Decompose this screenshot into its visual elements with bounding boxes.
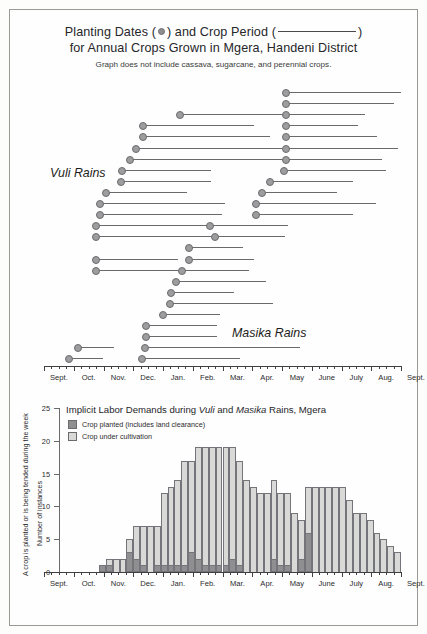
bar-column bbox=[223, 408, 230, 572]
crop-period-line bbox=[255, 214, 353, 215]
bar-segment-crop-under-cultivation bbox=[339, 487, 346, 572]
bar-segment-crop-under-cultivation bbox=[367, 520, 374, 572]
axis-tick-major bbox=[44, 366, 45, 371]
planting-date-marker bbox=[282, 156, 290, 164]
axis-tick-major bbox=[193, 572, 194, 577]
y-axis-tick-label: 25 bbox=[30, 404, 50, 413]
planting-date-marker bbox=[282, 122, 290, 130]
bar-segment-crop-under-cultivation bbox=[387, 546, 394, 572]
bar-segment-crop-under-cultivation bbox=[394, 552, 401, 572]
axis-tick-major bbox=[312, 572, 313, 577]
bar-segment-crop-under-cultivation bbox=[360, 513, 367, 572]
axis-month-label: Apr. bbox=[260, 373, 274, 382]
bar-segment-crop-under-cultivation bbox=[380, 539, 387, 572]
axis-tick-minor bbox=[126, 366, 127, 369]
axis-tick-major bbox=[312, 366, 313, 371]
axis-tick-major bbox=[74, 572, 75, 577]
axis-tick-minor bbox=[260, 572, 261, 575]
bar-column bbox=[264, 408, 271, 572]
crop-period-line bbox=[135, 148, 282, 149]
title-part-b: ) and Crop Period ( bbox=[167, 25, 276, 39]
bar-column bbox=[312, 408, 319, 572]
axis-tick-major bbox=[193, 366, 194, 371]
axis-tick-minor bbox=[334, 572, 335, 575]
axis-tick-minor bbox=[364, 366, 365, 369]
bar-column bbox=[154, 408, 161, 572]
axis-tick-minor bbox=[327, 366, 328, 369]
bar-column bbox=[161, 408, 168, 572]
bar-column bbox=[202, 408, 209, 572]
bar-segment-crop-planted bbox=[195, 559, 202, 572]
axis-tick-minor bbox=[394, 366, 395, 369]
bar-segment-crop-under-cultivation bbox=[346, 500, 353, 572]
axis-tick-minor bbox=[364, 572, 365, 575]
crop-period-line bbox=[95, 259, 178, 260]
axis-tick-minor bbox=[148, 572, 149, 575]
axis-tick-minor bbox=[319, 572, 320, 575]
planting-date-marker bbox=[166, 300, 174, 308]
planting-date-marker bbox=[185, 244, 193, 252]
bar-column bbox=[99, 408, 106, 572]
axis-tick-minor bbox=[289, 572, 290, 575]
crop-period-line bbox=[145, 325, 216, 326]
figure-title-line-1: Planting Dates () and Crop Period () bbox=[10, 24, 417, 40]
axis-tick-minor bbox=[141, 366, 142, 369]
axis-tick-major bbox=[252, 366, 253, 371]
planting-date-marker bbox=[138, 355, 146, 363]
axis-tick-minor bbox=[81, 572, 82, 575]
axis-tick-minor bbox=[230, 572, 231, 575]
crop-period-line bbox=[99, 203, 225, 204]
axis-tick-minor bbox=[319, 366, 320, 369]
axis-tick-minor bbox=[126, 572, 127, 575]
axis-tick-minor bbox=[275, 572, 276, 575]
bar-segment-crop-under-cultivation bbox=[113, 559, 120, 572]
crop-period-line bbox=[209, 225, 288, 226]
axis-tick-minor bbox=[230, 366, 231, 369]
bar-segment-crop-under-cultivation bbox=[353, 513, 360, 572]
bar-segment-crop-under-cultivation bbox=[181, 461, 188, 566]
bar-column bbox=[126, 408, 133, 572]
figure-page: Planting Dates () and Crop Period () for… bbox=[0, 0, 427, 634]
axis-tick-minor bbox=[51, 572, 52, 575]
axis-tick-major bbox=[401, 572, 402, 577]
bar-column bbox=[374, 408, 381, 572]
crop-period-line bbox=[99, 214, 222, 215]
axis-tick-minor bbox=[379, 366, 380, 369]
y-axis-caption-outer: A crop is planted or is being tended dur… bbox=[22, 413, 30, 576]
bar-column bbox=[147, 408, 154, 572]
bar-column bbox=[106, 408, 113, 572]
bar-column bbox=[140, 408, 147, 572]
axis-tick-minor bbox=[297, 366, 298, 369]
bar-segment-crop-planted bbox=[126, 552, 133, 572]
crop-period-line bbox=[285, 125, 358, 126]
axis-month-label: Feb. bbox=[200, 373, 215, 382]
axis-tick-minor bbox=[59, 572, 60, 575]
axis-month-label: Feb. bbox=[200, 579, 215, 588]
crop-period-line bbox=[285, 92, 401, 93]
crop-period-line bbox=[142, 136, 270, 137]
figure-subtitle: Graph does not include cassava, sugarcan… bbox=[10, 59, 417, 70]
bar-column bbox=[305, 408, 312, 572]
bar-column bbox=[113, 408, 120, 572]
bar-column bbox=[195, 408, 202, 572]
bar-segment-crop-under-cultivation bbox=[188, 461, 195, 553]
title-part-a: Planting Dates ( bbox=[65, 25, 156, 39]
axis-tick-minor bbox=[245, 366, 246, 369]
axis-tick-minor bbox=[215, 572, 216, 575]
crop-period-line bbox=[269, 181, 354, 182]
planting-date-marker bbox=[141, 344, 149, 352]
bar-segment-crop-under-cultivation bbox=[332, 487, 339, 572]
crop-period-line bbox=[162, 314, 220, 315]
axis-tick-major bbox=[401, 366, 402, 371]
figure-title-line-2: for Annual Crops Grown in Mgera, Handeni… bbox=[10, 40, 417, 56]
axis-tick-minor bbox=[215, 366, 216, 369]
axis-tick-major bbox=[342, 572, 343, 577]
axis-tick-minor bbox=[237, 572, 238, 575]
bar-column bbox=[188, 408, 195, 572]
bar-column bbox=[284, 408, 291, 572]
axis-tick-major bbox=[104, 366, 105, 371]
figure-title-block: Planting Dates () and Crop Period () for… bbox=[10, 24, 417, 70]
crop-period-line bbox=[188, 247, 243, 248]
axis-tick-minor bbox=[327, 572, 328, 575]
bar-column bbox=[120, 408, 127, 572]
